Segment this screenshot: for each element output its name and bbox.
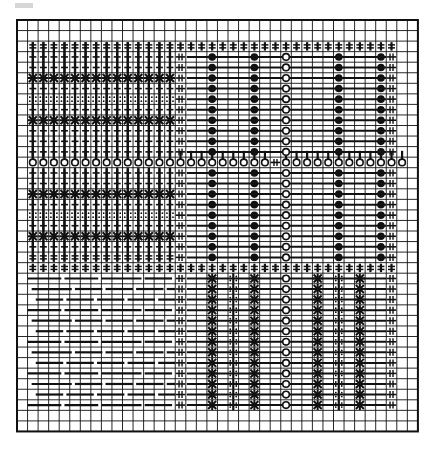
- weaving-draft-diagram: [0, 0, 436, 450]
